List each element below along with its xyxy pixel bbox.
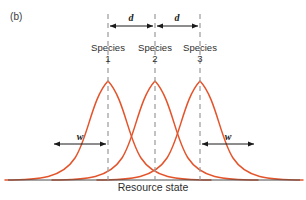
species-1-number: 1: [81, 53, 135, 64]
width-label-right: w: [218, 131, 238, 142]
figure-canvas: [0, 0, 306, 200]
figure-panel-b: (b): [0, 0, 306, 200]
species-label-3: Species 3: [173, 42, 227, 64]
distance-label-right: d: [167, 12, 187, 23]
width-label-left: w: [70, 131, 90, 142]
x-axis-title: Resource state: [0, 181, 306, 193]
species-label-1: Species 1: [81, 42, 135, 64]
panel-label: (b): [10, 11, 23, 22]
distance-label-left: d: [121, 12, 141, 23]
species-1-name: Species: [81, 42, 135, 53]
species-3-number: 3: [173, 53, 227, 64]
species-3-name: Species: [173, 42, 227, 53]
